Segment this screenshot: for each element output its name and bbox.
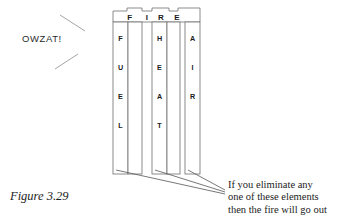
heat-letter-2: A	[157, 92, 162, 101]
fuel-letter-2: E	[118, 92, 123, 101]
heat-letter-1: E	[157, 63, 162, 72]
air-letter-0: A	[190, 34, 195, 43]
heat-column-face	[167, 22, 180, 174]
heat-letter-3: T	[157, 121, 162, 130]
elimination-note: If you eliminate any one of these elemen…	[228, 179, 327, 216]
owzat-label: OWZAT!	[22, 33, 62, 44]
note-line-3: then the fire will go out	[228, 204, 327, 216]
air-letter-1: I	[192, 63, 194, 72]
note-line-1: If you eliminate any	[228, 179, 327, 191]
title-letter-i: I	[146, 13, 149, 22]
fire-triangle-figure: F I R E F U E L H E A T A I R OWZAT! Fig…	[0, 0, 347, 223]
figure-caption: Figure 3.29	[10, 189, 69, 204]
fuel-letter-1: U	[118, 63, 123, 72]
fuel-column-face	[128, 22, 142, 174]
spark-line-lower	[55, 54, 78, 69]
spark-line-upper	[60, 15, 85, 31]
fire-top-bar	[113, 8, 200, 22]
air-letter-2: R	[190, 92, 196, 101]
title-letter-f: F	[127, 13, 132, 22]
note-line-2: one of these elements	[228, 191, 327, 203]
heat-letter-0: H	[157, 34, 162, 43]
title-letter-r: R	[158, 13, 164, 22]
fuel-letter-3: L	[118, 121, 123, 130]
fuel-letter-0: F	[118, 34, 123, 43]
title-letter-e: E	[174, 13, 180, 22]
